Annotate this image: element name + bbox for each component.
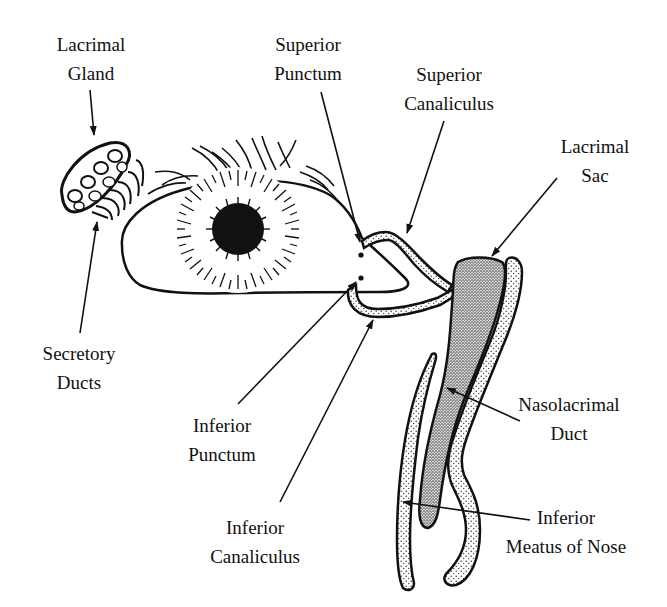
label-inferior-punctum: InferiorPunctum [188,411,256,469]
label-superior-punctum: SuperiorPunctum [274,30,342,88]
label-secretory-ducts: SecretoryDucts [43,339,116,397]
label-nasolacrimal-duct: NasolacrimalDuct [518,390,619,448]
label-inferior-canaliculus: InferiorCanaliculus [210,513,300,571]
inferior-punctum-dot [358,275,363,280]
label-superior-canaliculus: SuperiorCanaliculus [404,60,494,118]
label-inferior-meatus-of-nose: InferiorMeatus of Nose [506,503,626,561]
label-lacrimal-gland: LacrimalGland [57,30,126,88]
lacrimal-gland-shape [62,143,130,212]
label-lacrimal-sac: LacrimalSac [561,132,630,190]
lacrimal-apparatus-diagram: LacrimalGland SuperiorPunctum SuperiorCa… [0,0,667,607]
superior-punctum-dot [358,252,363,257]
